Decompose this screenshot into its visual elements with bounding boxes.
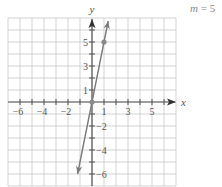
- slope-value: 5: [210, 2, 216, 14]
- x-tick-label: −4: [37, 106, 48, 117]
- y-tick-label: 5: [83, 37, 88, 48]
- x-tick-label: −2: [61, 106, 72, 117]
- slope-equals: =: [198, 2, 210, 14]
- y-tick-label: −2: [96, 121, 107, 132]
- coordinate-plane: −6−4−2135531−2−4−6xy: [0, 0, 222, 187]
- data-point: [101, 39, 106, 44]
- y-tick-label: −4: [96, 145, 107, 156]
- slope-variable: m: [190, 2, 198, 14]
- x-tick-label: 1: [102, 106, 107, 117]
- x-tick-label: 3: [126, 106, 131, 117]
- y-tick-label: 3: [83, 61, 88, 72]
- x-tick-label: 5: [150, 106, 155, 117]
- slope-annotation: m = 5: [190, 2, 215, 14]
- y-axis-label: y: [89, 3, 95, 15]
- y-tick-label: −6: [96, 169, 107, 180]
- x-tick-label: −6: [13, 106, 24, 117]
- data-point: [89, 99, 94, 104]
- y-tick-label: 1: [83, 85, 88, 96]
- x-axis-label: x: [180, 96, 186, 108]
